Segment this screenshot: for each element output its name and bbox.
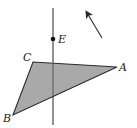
label-e: E [57,33,66,46]
point-e-dot [51,37,56,42]
label-a: A [118,61,127,74]
direction-arrow-icon [87,12,103,38]
geometry-diagram: E C A B [0,0,137,128]
label-c: C [23,51,32,64]
triangle-abc [13,62,117,115]
diagram-svg: E C A B [0,0,137,128]
label-b: B [2,112,11,125]
